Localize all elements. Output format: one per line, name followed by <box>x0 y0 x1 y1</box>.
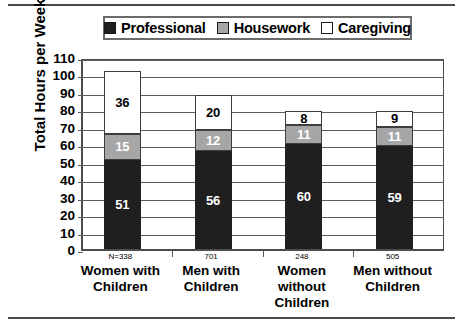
y-axis-tick <box>78 147 83 148</box>
legend-label-caregiving: Caregiving <box>338 20 411 36</box>
y-axis-tick <box>78 95 83 96</box>
y-axis-tick-label: 60 <box>45 140 75 154</box>
y-axis-tick <box>78 217 83 218</box>
bar-segment-caregiving: 9 <box>376 111 413 127</box>
bar-segment-professional: 59 <box>376 146 413 249</box>
bar-stack: 511536 <box>104 71 141 249</box>
legend-item-caregiving: Caregiving <box>321 20 411 36</box>
x-axis-label-group: 505Men withoutChildren <box>348 251 438 294</box>
y-axis-tick-label: 110 <box>45 52 75 66</box>
category-label-line: Children <box>166 278 256 294</box>
figure-top-rule <box>8 4 455 6</box>
legend-item-professional: Professional <box>104 20 206 36</box>
y-axis-tick-label: 0 <box>45 244 75 258</box>
bar-segment-professional: 60 <box>285 144 322 249</box>
category-label-line: Men with <box>166 262 256 278</box>
category-label-line: Children <box>348 278 438 294</box>
y-axis-tick-label: 80 <box>45 105 75 119</box>
x-axis-labels: N=338Women withChildren701Men withChildr… <box>81 251 444 323</box>
y-axis-tick-label: 100 <box>45 70 75 84</box>
bar-stack: 60118 <box>285 111 322 249</box>
y-axis-tick <box>78 130 83 131</box>
category-label-line: Children <box>257 294 347 310</box>
y-axis-tick <box>78 182 83 183</box>
y-axis-tick-label: 20 <box>45 209 75 223</box>
y-axis-tick <box>78 60 83 61</box>
y-axis-tick-label: 70 <box>45 122 75 136</box>
y-axis-tick-label: 40 <box>45 174 75 188</box>
category-label-line: Women with <box>75 262 165 278</box>
plot-area: 5115365612206011859119 <box>81 59 444 251</box>
y-axis-tick <box>78 112 83 113</box>
legend-label-professional: Professional <box>121 20 206 36</box>
sample-size-label: 505 <box>348 251 438 262</box>
legend-swatch-housework <box>217 22 229 34</box>
bar-stack: 59119 <box>376 111 413 249</box>
gridline <box>83 60 443 61</box>
category-label-line: Men without <box>348 262 438 278</box>
plot-wrapper: 5115365612206011859119 <box>81 59 444 251</box>
category-label-line: without <box>257 278 347 294</box>
chart-figure: Professional Housework Caregiving Total … <box>0 0 463 327</box>
legend-swatch-professional <box>104 22 116 34</box>
legend-label-housework: Housework <box>234 20 310 36</box>
y-axis-tick-label: 10 <box>45 227 75 241</box>
category-label-line: Women <box>257 262 347 278</box>
y-axis-tick-label: 90 <box>45 87 75 101</box>
bar-segment-housework: 12 <box>195 130 232 151</box>
y-axis-tick <box>78 77 83 78</box>
bar-segment-housework: 11 <box>376 127 413 146</box>
y-axis-tick-label: 50 <box>45 157 75 171</box>
bar-segment-caregiving: 8 <box>285 111 322 125</box>
y-axis-tick <box>78 235 83 236</box>
chart-legend: Professional Housework Caregiving <box>103 16 412 40</box>
bar-segment-caregiving: 36 <box>104 71 141 134</box>
category-label-line: Children <box>75 278 165 294</box>
x-axis-label-group: N=338Women withChildren <box>75 251 165 294</box>
bar-stack: 561220 <box>195 95 232 249</box>
bar-segment-housework: 11 <box>285 125 322 144</box>
x-axis-label-group: 248WomenwithoutChildren <box>257 251 347 310</box>
sample-size-label: N=338 <box>75 251 165 262</box>
y-axis-tick <box>78 165 83 166</box>
y-axis-tick <box>78 200 83 201</box>
bar-segment-housework: 15 <box>104 134 141 160</box>
y-axis-tick-labels: 0102030405060708090100110 <box>43 59 75 251</box>
bar-segment-caregiving: 20 <box>195 95 232 130</box>
legend-item-housework: Housework <box>217 20 310 36</box>
bar-segment-professional: 51 <box>104 160 141 249</box>
x-axis-label-group: 701Men withChildren <box>166 251 256 294</box>
sample-size-label: 248 <box>257 251 347 262</box>
legend-swatch-caregiving <box>321 22 333 34</box>
y-axis-tick-label: 30 <box>45 192 75 206</box>
bar-segment-professional: 56 <box>195 151 232 249</box>
sample-size-label: 701 <box>166 251 256 262</box>
